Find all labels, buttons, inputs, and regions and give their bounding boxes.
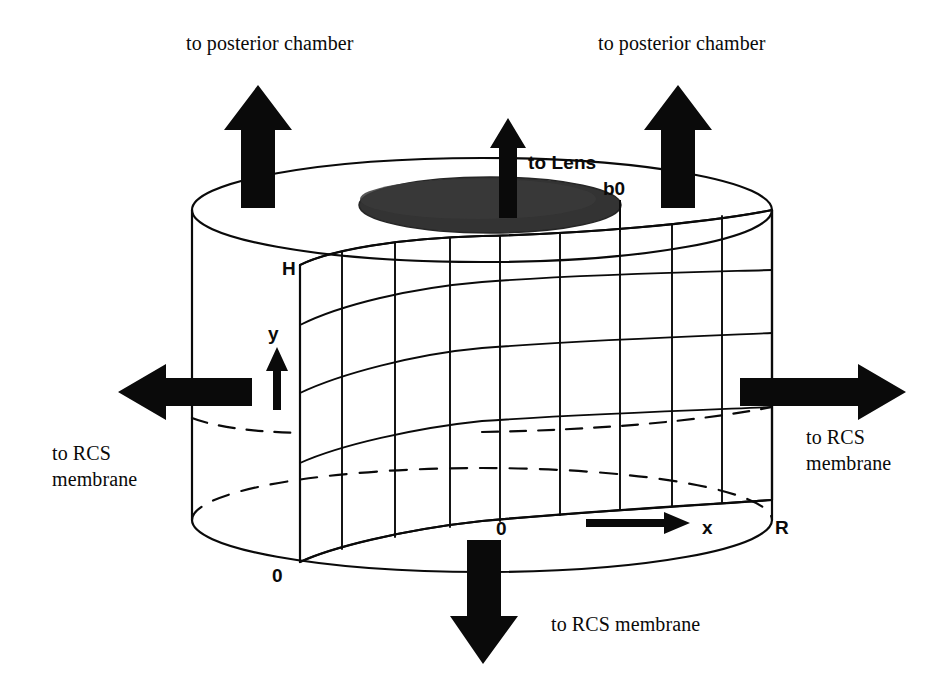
label-to-rcs-membrane-right-line1: to RCS <box>806 426 865 450</box>
label-y-axis: y <box>268 323 279 345</box>
hidden-ring-left <box>192 418 300 433</box>
cylinder-bottom-rim-back <box>192 468 772 520</box>
diagram-canvas: to posterior chamber to posterior chambe… <box>0 0 948 689</box>
mesh-hline-3 <box>300 333 772 393</box>
label-to-rcs-membrane-bottom: to RCS membrane <box>551 613 700 637</box>
arrow-y-axis <box>266 347 288 410</box>
label-to-rcs-membrane-left-line2: membrane <box>52 468 137 492</box>
label-b0: b0 <box>603 178 625 200</box>
arrow-left <box>118 364 252 420</box>
label-to-posterior-chamber-left: to posterior chamber <box>186 32 354 56</box>
label-to-lens: to Lens <box>528 152 596 174</box>
label-to-rcs-membrane-right-line2: membrane <box>806 452 891 476</box>
label-radial-max-R: R <box>775 517 789 539</box>
mesh-horizontal-lines <box>300 210 772 562</box>
lens-patch-shade <box>360 179 596 219</box>
label-to-posterior-chamber-right: to posterior chamber <box>598 32 766 56</box>
arrow-right <box>740 364 906 420</box>
mesh-hline-2 <box>300 270 772 325</box>
hidden-ring-right <box>482 407 772 432</box>
cylinder-schematic <box>0 0 948 689</box>
label-height-zero: 0 <box>272 565 283 587</box>
label-radial-origin: 0 <box>496 518 507 540</box>
mesh-hline-4 <box>300 407 772 463</box>
label-height-H: H <box>282 258 296 280</box>
label-to-rcs-membrane-left-line1: to RCS <box>52 442 111 466</box>
arrow-bottom <box>450 540 518 664</box>
label-x-axis: x <box>702 517 713 539</box>
mesh-vertical-lines <box>342 216 722 549</box>
lens-patch-group <box>359 177 621 233</box>
arrow-x-axis <box>586 512 690 534</box>
